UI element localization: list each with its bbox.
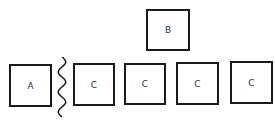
box-c-2: C [124, 63, 166, 105]
box-a: A [9, 64, 52, 107]
box-c-2-label: C [142, 79, 148, 89]
box-a-label: A [27, 81, 33, 91]
box-b-label: B [165, 25, 171, 35]
box-b: B [146, 9, 190, 51]
box-c-3: C [176, 62, 219, 105]
box-c-1: C [73, 63, 115, 106]
box-c-3-label: C [194, 79, 200, 89]
box-c-4: C [230, 61, 273, 104]
wavy-separator-line [56, 57, 68, 117]
box-c-4-label: C [248, 78, 254, 88]
box-c-1-label: C [91, 80, 97, 90]
